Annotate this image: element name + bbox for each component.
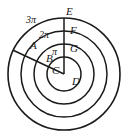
arc-label-3pi: 3π [26, 15, 36, 25]
point-label-g: G [70, 43, 78, 54]
point-label-d: D [72, 76, 80, 87]
arc-label-2pi: 2π [39, 30, 49, 40]
figure-canvas [0, 0, 127, 139]
point-label-e: E [66, 6, 73, 17]
concentric-circles-figure: A B C D E F G 3π 2π π [0, 0, 127, 139]
point-label-f: F [70, 25, 77, 36]
point-label-a: A [30, 40, 37, 51]
point-label-c: C [52, 65, 59, 76]
arc-label-pi: π [52, 47, 57, 57]
